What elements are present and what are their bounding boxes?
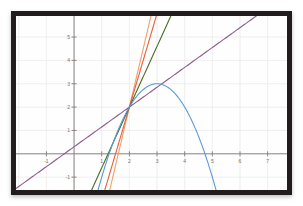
plotted-curves	[16, 16, 275, 190]
y-axis-tick-label: 2	[67, 104, 70, 110]
y-axis-tick-label: 5	[67, 34, 70, 40]
x-axis-tick-label: 1	[100, 158, 103, 164]
graph-frame: -11234567-112345	[11, 11, 292, 195]
x-axis-tick-label: 6	[239, 158, 242, 164]
screenshot-root: -11234567-112345	[0, 0, 303, 206]
y-axis-tick-label: 1	[67, 127, 70, 133]
curve-tangent-purple	[16, 16, 275, 188]
y-axis-tick-label: -1	[66, 174, 71, 180]
curve-parabola	[98, 84, 220, 190]
axes	[16, 16, 287, 190]
curve-secant-green	[86, 16, 177, 190]
x-axis-tick-label: 4	[183, 158, 186, 164]
plot-surface: -11234567-112345	[16, 16, 287, 190]
gridlines	[16, 16, 287, 190]
x-axis-tick-label: 3	[156, 158, 159, 164]
x-axis-tick-label: 2	[128, 158, 131, 164]
x-axis-tick-label: -1	[44, 158, 49, 164]
x-axis-tick-label: 7	[266, 158, 269, 164]
graph-canvas: -11234567-112345	[16, 16, 287, 190]
y-axis-tick-label: 3	[67, 81, 70, 87]
x-axis-tick-label: 5	[211, 158, 214, 164]
y-axis-tick-label: 4	[67, 57, 70, 63]
